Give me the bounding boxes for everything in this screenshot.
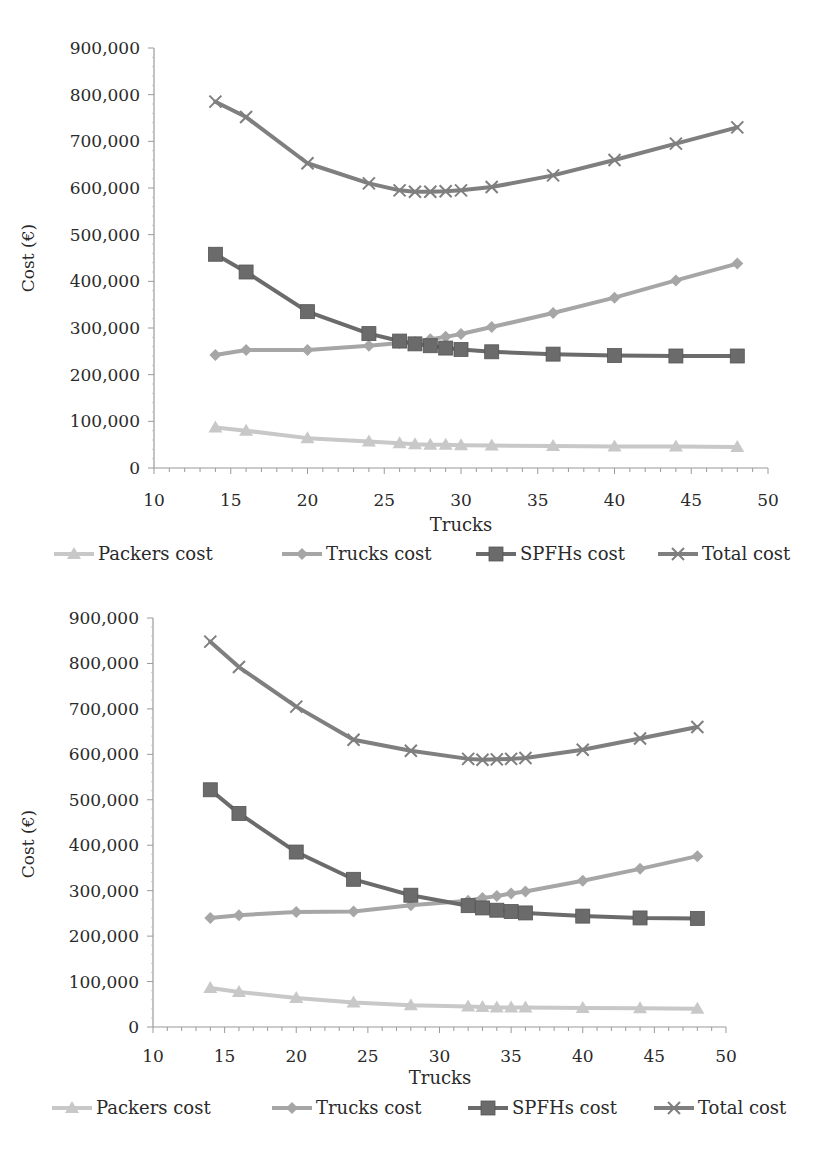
diamond-marker xyxy=(290,906,302,918)
square-marker xyxy=(490,903,504,917)
diamond-marker xyxy=(547,307,559,319)
legend: Packers costTrucks costSPFHs costTotal c… xyxy=(52,1097,787,1118)
x-tick-label: 20 xyxy=(297,490,319,510)
y-tick-label: 200,000 xyxy=(70,365,140,385)
y-tick-label: 100,000 xyxy=(70,411,140,431)
square-marker xyxy=(423,339,437,353)
chart-top: 0100,000200,000300,000400,000500,000600,… xyxy=(0,0,814,584)
y-tick-label: 900,000 xyxy=(70,38,140,58)
y-axis: 0100,000200,000300,000400,000500,000600,… xyxy=(70,38,154,478)
square-marker xyxy=(404,888,418,902)
y-tick-label: 600,000 xyxy=(69,744,139,764)
diamond-marker xyxy=(670,274,682,286)
legend-label: SPFHs cost xyxy=(512,1097,618,1118)
x-tick-label: 35 xyxy=(527,490,549,510)
y-axis: 0100,000200,000300,000400,000500,000600,… xyxy=(69,608,153,1037)
diamond-marker xyxy=(233,909,245,921)
series-packers-cost xyxy=(208,420,744,452)
legend-label: Total cost xyxy=(698,1097,787,1118)
y-tick-label: 400,000 xyxy=(70,271,140,291)
square-marker xyxy=(690,911,704,925)
diamond-marker xyxy=(240,344,252,356)
y-tick-label: 0 xyxy=(128,1017,139,1037)
y-tick-label: 300,000 xyxy=(69,881,139,901)
x-axis: 101520253035404550 xyxy=(143,468,779,510)
square-marker xyxy=(408,337,422,351)
y-tick-label: 800,000 xyxy=(69,653,139,673)
plot-area xyxy=(203,636,704,1014)
square-marker xyxy=(239,265,253,279)
diamond-marker xyxy=(296,548,308,560)
square-marker xyxy=(347,872,361,886)
x-axis-title: Trucks xyxy=(430,514,492,535)
legend-item-packers-cost: Packers cost xyxy=(52,1097,211,1118)
legend-item-trucks-cost: Trucks cost xyxy=(272,1097,422,1118)
x-tick-label: 50 xyxy=(757,490,779,510)
legend-item-spfhs-cost: SPFHs cost xyxy=(476,543,626,564)
x-tick-label: 15 xyxy=(214,1046,236,1066)
legend-label: Packers cost xyxy=(98,543,213,564)
square-marker xyxy=(232,806,246,820)
y-tick-label: 500,000 xyxy=(69,790,139,810)
square-marker xyxy=(393,334,407,348)
square-marker xyxy=(362,327,376,341)
diamond-marker xyxy=(204,912,216,924)
y-tick-label: 900,000 xyxy=(69,608,139,628)
square-marker xyxy=(439,341,453,355)
legend-label: Trucks cost xyxy=(316,1097,422,1118)
x-tick-label: 25 xyxy=(373,490,395,510)
square-marker xyxy=(576,909,590,923)
square-marker xyxy=(518,906,532,920)
legend-label: Packers cost xyxy=(96,1097,211,1118)
diamond-marker xyxy=(348,906,360,918)
square-marker xyxy=(289,845,303,859)
legend-label: Total cost xyxy=(702,543,791,564)
x-tick-label: 10 xyxy=(142,1046,164,1066)
x-tick-label: 35 xyxy=(500,1046,522,1066)
diamond-marker xyxy=(731,258,743,270)
legend-label: SPFHs cost xyxy=(520,543,626,564)
y-tick-label: 100,000 xyxy=(69,972,139,992)
y-tick-label: 400,000 xyxy=(69,835,139,855)
plot-area xyxy=(208,96,744,452)
series-spfhs-cost xyxy=(203,783,704,926)
y-axis-title: Cost (€) xyxy=(18,810,38,878)
x-marker xyxy=(233,661,245,673)
y-tick-label: 700,000 xyxy=(70,131,140,151)
y-tick-label: 300,000 xyxy=(70,318,140,338)
series-spfhs-cost xyxy=(208,247,744,363)
diamond-marker xyxy=(505,887,517,899)
legend: Packers costTrucks costSPFHs costTotal c… xyxy=(54,543,791,564)
x-tick-label: 45 xyxy=(644,1046,666,1066)
legend-label: Trucks cost xyxy=(326,543,432,564)
y-tick-label: 600,000 xyxy=(70,178,140,198)
x-tick-label: 10 xyxy=(143,490,165,510)
square-marker xyxy=(633,911,647,925)
x-marker xyxy=(290,701,302,713)
x-tick-label: 30 xyxy=(450,490,472,510)
y-tick-label: 800,000 xyxy=(70,85,140,105)
diamond-marker xyxy=(491,890,503,902)
x-tick-label: 50 xyxy=(715,1046,737,1066)
diamond-marker xyxy=(363,340,375,352)
x-tick-label: 30 xyxy=(429,1046,451,1066)
series-trucks-cost xyxy=(204,850,703,924)
legend-item-trucks-cost: Trucks cost xyxy=(282,543,432,564)
legend-item-total-cost: Total cost xyxy=(654,1097,787,1118)
diamond-marker xyxy=(609,292,621,304)
series-total-cost xyxy=(204,636,703,766)
x-tick-label: 15 xyxy=(220,490,242,510)
x-marker xyxy=(204,636,216,648)
diamond-marker xyxy=(577,875,589,887)
y-tick-label: 0 xyxy=(129,458,140,478)
square-marker xyxy=(208,247,222,261)
x-tick-label: 20 xyxy=(285,1046,307,1066)
diamond-marker xyxy=(486,321,498,333)
square-marker xyxy=(475,901,489,915)
square-marker xyxy=(203,783,217,797)
x-axis-title: Trucks xyxy=(409,1067,471,1088)
square-marker xyxy=(485,345,499,359)
y-tick-label: 500,000 xyxy=(70,225,140,245)
x-tick-label: 40 xyxy=(572,1046,594,1066)
x-axis: 101520253035404550 xyxy=(142,1027,737,1066)
